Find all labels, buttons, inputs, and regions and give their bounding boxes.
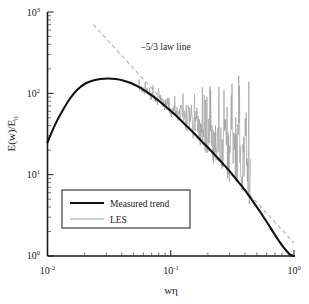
chart-canvas: 103 102 101 100 10-2 10-1 100 <box>0 0 309 304</box>
y-tick-labels: 103 102 101 100 <box>27 6 40 261</box>
y-tick-label-100: 102 <box>27 87 40 99</box>
chart-legend: Measured trend LES <box>62 190 190 228</box>
energy-spectrum-chart: 103 102 101 100 10-2 10-1 100 <box>0 0 309 304</box>
measured-trend-series-line <box>48 79 295 256</box>
legend-label-les: LES <box>110 215 127 225</box>
les-series-line <box>139 76 251 204</box>
legend-label-measured-trend: Measured trend <box>110 199 170 209</box>
x-tick-label-0p1: 10-1 <box>163 264 178 276</box>
x-tick-labels: 10-2 10-1 100 <box>40 264 301 276</box>
law-line-annotation: –5/3 law line <box>140 42 191 52</box>
x-axis-title: wη <box>164 284 178 296</box>
y-tick-label-1: 100 <box>27 249 40 261</box>
y-axis-title: E(w)/E0 <box>5 116 19 151</box>
x-tick-label-1: 100 <box>287 264 300 276</box>
y-tick-label-1000: 103 <box>27 6 40 18</box>
y-tick-label-10: 101 <box>27 168 40 180</box>
x-tick-label-0p01: 10-2 <box>40 264 55 276</box>
